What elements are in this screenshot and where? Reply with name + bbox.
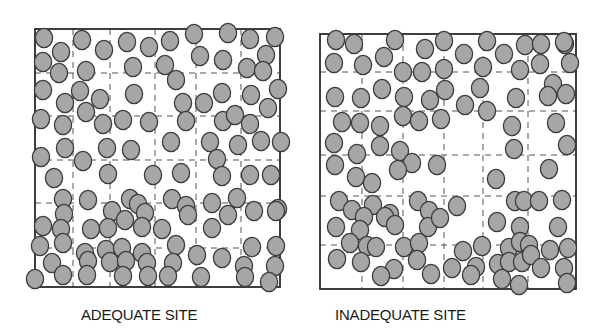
particle-circle xyxy=(354,55,371,74)
particle-circle xyxy=(549,217,566,236)
particle-circle xyxy=(553,190,570,209)
particle-circle xyxy=(493,269,510,288)
particle-circle xyxy=(372,266,389,285)
particle-circle xyxy=(431,208,448,227)
particle-circle xyxy=(367,237,384,256)
particle-circle xyxy=(478,31,495,50)
particle-circle xyxy=(478,101,495,120)
particle-circle xyxy=(408,250,425,269)
particle-circle xyxy=(510,275,527,294)
particle-circle xyxy=(327,30,344,49)
particle-circle xyxy=(428,155,445,174)
particle-circle xyxy=(455,44,472,63)
particle-circle xyxy=(371,136,388,155)
particle-circle xyxy=(421,90,438,109)
particle-circle xyxy=(432,109,449,128)
particle-circle xyxy=(471,78,488,97)
particle-circle xyxy=(559,238,576,257)
particle-circle xyxy=(456,95,473,114)
particle-circle xyxy=(326,155,343,174)
particle-circle xyxy=(416,39,433,58)
particle-circle xyxy=(530,191,547,210)
particle-circle xyxy=(352,88,369,107)
particle-circle xyxy=(435,31,452,50)
particle-circle xyxy=(557,84,574,103)
inadequate-site-panel: INADEQUATE SITE xyxy=(0,0,607,334)
particle-circle xyxy=(473,236,490,255)
particle-circle xyxy=(555,32,572,51)
particle-circle xyxy=(558,135,575,154)
particle-circle xyxy=(516,35,533,54)
particle-circle xyxy=(541,240,558,259)
particle-circle xyxy=(547,113,564,132)
particle-circle xyxy=(488,212,505,231)
particle-circle xyxy=(474,57,491,76)
inadequate-site-caption: INADEQUATE SITE xyxy=(335,306,466,323)
particle-circle xyxy=(435,59,452,78)
particle-circle xyxy=(422,264,439,283)
particle-circle xyxy=(436,80,453,99)
particle-circle xyxy=(386,30,403,49)
particle-circle xyxy=(532,258,549,277)
particle-circle xyxy=(495,44,512,63)
particle-circle xyxy=(394,62,411,81)
particle-circle xyxy=(345,34,362,53)
particle-circle xyxy=(386,215,403,234)
particle-circle xyxy=(540,159,557,178)
particle-circle xyxy=(341,233,358,252)
particle-circle xyxy=(394,106,411,125)
particle-circle xyxy=(348,144,365,163)
particle-circle xyxy=(511,60,528,79)
particle-circle xyxy=(532,34,549,53)
particle-circle xyxy=(395,87,412,106)
particle-circle xyxy=(363,173,380,192)
particle-circle xyxy=(325,53,342,72)
inadequate-site-diagram xyxy=(0,0,607,334)
particle-circle xyxy=(503,116,520,135)
particle-circle xyxy=(389,160,406,179)
particle-circle xyxy=(410,111,427,130)
particle-circle xyxy=(326,87,343,106)
particle-circle xyxy=(443,258,460,277)
particle-circle xyxy=(413,62,430,81)
particle-circle xyxy=(558,273,575,292)
particle-circle xyxy=(347,167,364,186)
particle-circle xyxy=(448,196,465,215)
particle-circle xyxy=(539,86,556,105)
particle-circle xyxy=(375,47,392,66)
particle-circle xyxy=(487,169,504,188)
particle-circle xyxy=(352,252,369,271)
particle-circle xyxy=(333,112,350,131)
particle-circle xyxy=(462,265,479,284)
particle-circle xyxy=(373,79,390,98)
particle-circle xyxy=(410,233,427,252)
particle-circle xyxy=(327,217,344,236)
particle-circle xyxy=(454,241,471,260)
particle-circle xyxy=(371,116,388,135)
particle-circle xyxy=(561,53,578,72)
particle-circle xyxy=(351,113,368,132)
particle-circle xyxy=(505,139,522,158)
particle-circle xyxy=(531,54,548,73)
particle-circle xyxy=(507,88,524,107)
particle-circle xyxy=(325,133,342,152)
particle-circle xyxy=(328,249,345,268)
